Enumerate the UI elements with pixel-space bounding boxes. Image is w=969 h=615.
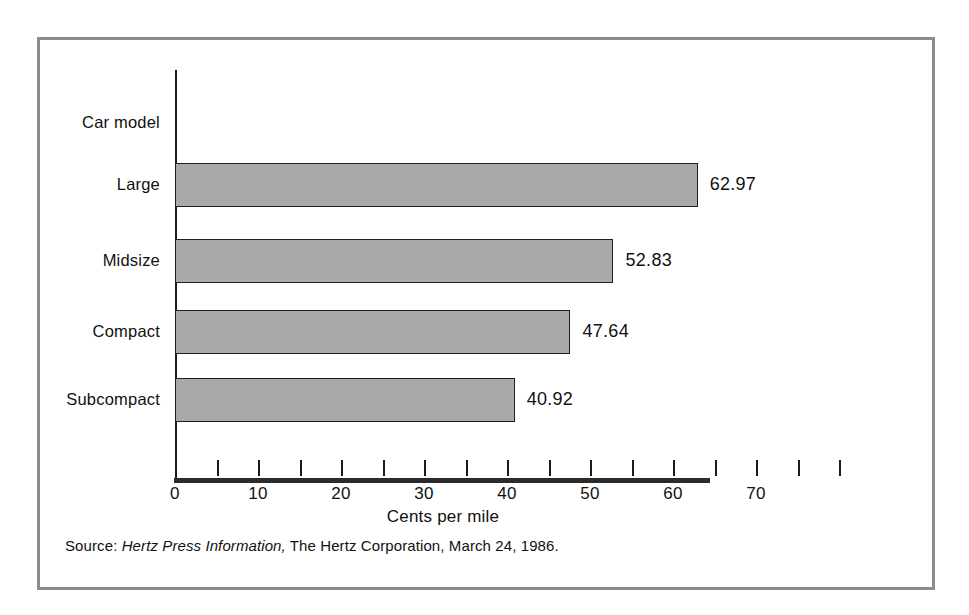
source-note: Source: Hertz Press Information, The Her… bbox=[65, 537, 559, 554]
figure-container: Car model 62.9752.8347.6440.92 LargeMids… bbox=[0, 0, 969, 615]
figure-border bbox=[37, 37, 935, 590]
source-rest: The Hertz Corporation, March 24, 1986. bbox=[290, 537, 559, 554]
source-prefix: Source: bbox=[65, 537, 117, 554]
source-publication: Hertz Press Information, bbox=[122, 537, 286, 554]
